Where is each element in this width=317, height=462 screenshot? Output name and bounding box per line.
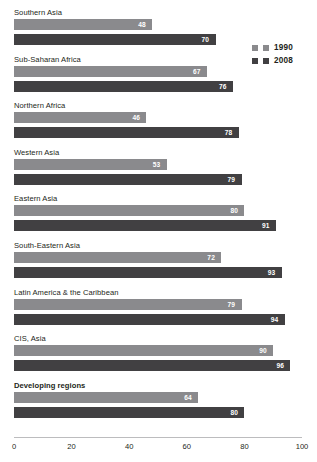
bar-row: 96 [14, 360, 302, 371]
bar-row: 91 [14, 220, 302, 231]
x-tick-0: 0 [12, 441, 16, 452]
bar-value-label: 80 [230, 206, 238, 215]
bar-row: 78 [14, 127, 302, 138]
bar-1990[interactable] [14, 159, 167, 170]
bar-row: 80 [14, 407, 302, 418]
bar-value-label: 79 [228, 300, 236, 309]
bar-2008[interactable] [14, 81, 233, 92]
category-label: Eastern Asia [14, 194, 57, 203]
bar-1990[interactable] [14, 345, 273, 356]
bar-1990[interactable] [14, 19, 152, 30]
category-label: Sub-Saharan Africa [14, 55, 81, 64]
bar-row: 93 [14, 267, 302, 278]
legend-swatch-2008-b [263, 58, 269, 64]
bar-1990[interactable] [14, 299, 242, 310]
x-tick-100: 100 [296, 441, 309, 452]
category-label: Southern Asia [14, 8, 62, 17]
legend-label-1990: 1990 [274, 42, 293, 54]
bar-value-label: 53 [153, 160, 161, 169]
bar-row: 90 [14, 345, 302, 356]
bar-value-label: 90 [259, 346, 267, 355]
legend-item-1990[interactable]: 1990 [252, 42, 314, 55]
bar-1990[interactable] [14, 205, 244, 216]
legend-label-2008: 2008 [274, 55, 293, 67]
bar-row: 94 [14, 314, 302, 325]
x-tick-40: 40 [125, 441, 133, 452]
bar-row: 53 [14, 159, 302, 170]
bar-2008[interactable] [14, 34, 216, 45]
legend-item-2008[interactable]: 2008 [252, 55, 314, 68]
category-label: CIS, Asia [14, 334, 46, 343]
bar-value-label: 70 [202, 35, 210, 44]
bar-value-label: 64 [184, 393, 192, 402]
bar-1990[interactable] [14, 392, 198, 403]
bar-1990[interactable] [14, 112, 146, 123]
bar-value-label: 91 [262, 221, 270, 230]
category-label: Western Asia [14, 148, 59, 157]
x-tick-20: 20 [67, 441, 75, 452]
bar-row: 76 [14, 81, 302, 92]
bar-row: 79 [14, 299, 302, 310]
bar-2008[interactable] [14, 174, 242, 185]
x-tick-80: 80 [240, 441, 248, 452]
cropped-title-remnant [14, 0, 244, 4]
bar-value-label: 48 [138, 20, 146, 29]
bar-chart: Southern Asia4870Sub-Saharan Africa6776N… [0, 0, 317, 462]
bar-2008[interactable] [14, 220, 276, 231]
bar-value-label: 46 [132, 113, 140, 122]
bar-value-label: 80 [230, 408, 238, 417]
bar-value-label: 76 [219, 82, 227, 91]
bar-value-label: 67 [193, 67, 201, 76]
category-label: Latin America & the Caribbean [14, 288, 118, 297]
plot-area: Southern Asia4870Sub-Saharan Africa6776N… [0, 8, 317, 429]
bar-row: 64 [14, 392, 302, 403]
bar-2008[interactable] [14, 407, 244, 418]
bar-row: 80 [14, 205, 302, 216]
bar-2008[interactable] [14, 127, 239, 138]
legend-swatch-2008-a [252, 58, 258, 64]
chart-legend: 1990 2008 [252, 42, 314, 68]
bar-row: 48 [14, 19, 302, 30]
category-label: Northern Africa [14, 101, 65, 110]
bar-row: 46 [14, 112, 302, 123]
bar-value-label: 94 [271, 315, 279, 324]
bar-value-label: 96 [276, 361, 284, 370]
bar-1990[interactable] [14, 252, 221, 263]
bar-value-label: 78 [225, 128, 233, 137]
x-tick-60: 60 [183, 441, 191, 452]
x-axis-tick-labels: 020406080100 [0, 441, 317, 453]
bar-2008[interactable] [14, 267, 282, 278]
bar-value-label: 79 [228, 175, 236, 184]
bar-row: 79 [14, 174, 302, 185]
bar-2008[interactable] [14, 314, 285, 325]
bar-1990[interactable] [14, 66, 207, 77]
bar-value-label: 93 [268, 268, 276, 277]
x-axis-line [14, 437, 302, 438]
category-label: Developing regions [14, 381, 85, 390]
bar-value-label: 72 [207, 253, 215, 262]
legend-swatch-1990-b [263, 45, 269, 51]
legend-swatch-1990-a [252, 45, 258, 51]
category-label: South-Eastern Asia [14, 241, 80, 250]
bar-row: 72 [14, 252, 302, 263]
bar-2008[interactable] [14, 360, 290, 371]
